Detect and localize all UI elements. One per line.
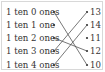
left-dot-1[interactable]: [53, 24, 55, 26]
connection-lines: [0, 0, 105, 72]
line-0-to-10: [54, 12, 87, 65]
right-dot-2[interactable]: [86, 37, 88, 39]
